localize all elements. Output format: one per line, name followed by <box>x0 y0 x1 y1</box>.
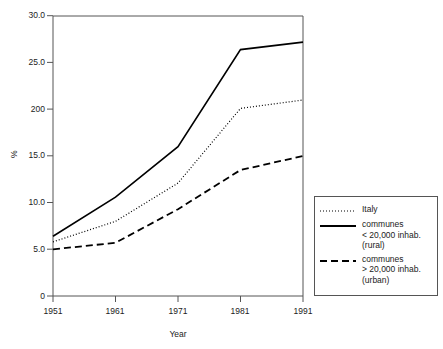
legend-label-urban-line1: communes <box>362 254 421 265</box>
chart-legend: Italy communes < 20,000 inhab. (rural) c… <box>314 196 438 296</box>
legend-key-solid-icon <box>320 220 356 231</box>
x-tick-label-1991: 1991 <box>283 307 323 316</box>
x-tick-label-1971: 1971 <box>158 307 198 316</box>
y-tick-label-30: 30.0 <box>9 11 45 20</box>
x-tick-label-1981: 1981 <box>220 307 260 316</box>
legend-key-dashed-icon <box>320 255 356 266</box>
legend-item-rural: communes < 20,000 inhab. (rural) <box>315 219 437 251</box>
series-line-urban <box>53 156 303 249</box>
series-line-rural <box>53 42 303 236</box>
legend-item-italy: Italy <box>315 204 437 216</box>
legend-label-rural-line2: < 20,000 inhab. <box>362 230 421 241</box>
legend-label-urban-line2: > 20,000 inhab. <box>362 264 421 275</box>
legend-label-italy: Italy <box>362 204 378 215</box>
y-tick-label-5: 5.0 <box>9 245 45 254</box>
legend-label-urban-line3: (urban) <box>362 275 421 286</box>
chart-figure: 30.0 25.0 200 15.0 10.0 5.0 0 1951 1961 … <box>0 0 443 349</box>
x-tick-label-1951: 1951 <box>33 307 73 316</box>
legend-label-rural: communes < 20,000 inhab. (rural) <box>362 219 421 251</box>
series-line-italy <box>53 100 303 242</box>
y-axis-title: % <box>10 150 19 158</box>
legend-label-italy-line1: Italy <box>362 204 378 215</box>
legend-label-rural-line3: (rural) <box>362 240 421 251</box>
line-chart-plot <box>0 0 443 349</box>
x-axis-title: Year <box>0 330 356 339</box>
x-axis-ticks <box>53 296 303 302</box>
y-tick-label-25: 25.0 <box>9 58 45 67</box>
x-tick-label-1961: 1961 <box>95 307 135 316</box>
y-tick-label-0: 0 <box>9 292 45 301</box>
legend-label-urban: communes > 20,000 inhab. (urban) <box>362 254 421 286</box>
legend-label-rural-line1: communes <box>362 219 421 230</box>
y-axis-ticks <box>47 16 53 296</box>
y-tick-label-20: 200 <box>9 105 45 114</box>
data-series-group <box>53 42 303 249</box>
legend-item-urban: communes > 20,000 inhab. (urban) <box>315 254 437 286</box>
axis-frame <box>53 16 303 296</box>
y-tick-label-10: 10.0 <box>9 198 45 207</box>
legend-key-dotted-icon <box>320 205 356 216</box>
